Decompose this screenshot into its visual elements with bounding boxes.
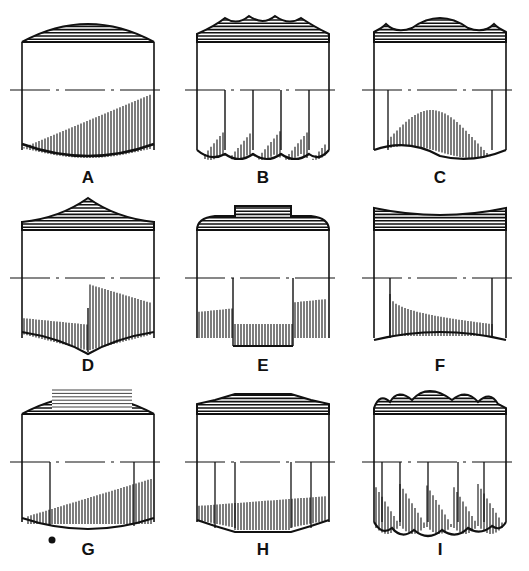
figure-label: A bbox=[0, 168, 176, 188]
figure-g: G bbox=[0, 372, 176, 562]
figure-label: C bbox=[352, 168, 528, 188]
figure-c: C bbox=[352, 0, 528, 190]
figure-b: B bbox=[175, 0, 351, 190]
figure-label: I bbox=[352, 540, 528, 560]
figure-drawing bbox=[0, 0, 176, 190]
figure-d: D bbox=[0, 188, 176, 378]
figure-drawing bbox=[352, 372, 528, 562]
figure-i: I bbox=[352, 372, 528, 562]
figure-drawing bbox=[0, 372, 176, 562]
figure-drawing bbox=[175, 0, 351, 190]
figure-f: F bbox=[352, 188, 528, 378]
figure-a: A bbox=[0, 0, 176, 190]
figure-drawing bbox=[352, 0, 528, 190]
figure-drawing bbox=[0, 188, 176, 378]
figure-label: G bbox=[0, 540, 176, 560]
figure-drawing bbox=[175, 188, 351, 378]
figure-label: B bbox=[175, 168, 351, 188]
figure-drawing bbox=[352, 188, 528, 378]
figure-drawing bbox=[175, 372, 351, 562]
figure-e: E bbox=[175, 188, 351, 378]
figure-h: H bbox=[175, 372, 351, 562]
figure-label: H bbox=[175, 540, 351, 560]
